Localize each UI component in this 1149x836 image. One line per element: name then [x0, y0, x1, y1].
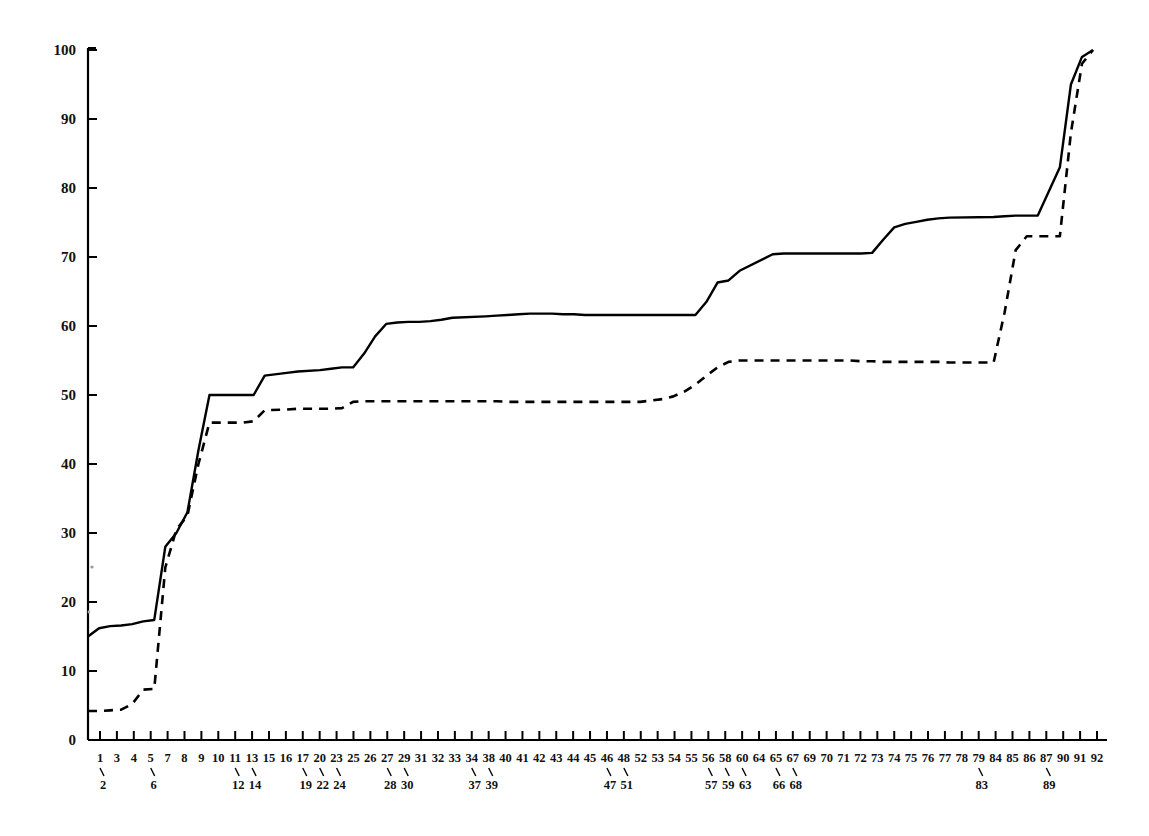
x-tick-label: 52	[634, 751, 647, 765]
x-tick-label: 76	[922, 751, 935, 765]
x-tick-label: 23	[330, 751, 343, 765]
x-tick-label: 86	[1023, 751, 1036, 765]
y-tick-label: 60	[61, 318, 76, 334]
scan-artifact-dot	[88, 611, 91, 614]
x-tick-label: 9	[198, 751, 204, 765]
x-tick-label: 84	[989, 751, 1002, 765]
x-tick-label: 77	[939, 751, 952, 765]
x-label-leader	[235, 768, 239, 776]
x-tick-label-secondary: 89	[1043, 778, 1056, 792]
x-label-leader	[100, 768, 104, 776]
x-tick-label-secondary: 39	[485, 778, 498, 792]
x-tick-label: 31	[415, 751, 428, 765]
x-tick-label-secondary: 51	[621, 778, 634, 792]
x-tick-label: 69	[803, 751, 816, 765]
x-tick-label: 90	[1057, 751, 1070, 765]
x-tick-label: 45	[584, 751, 597, 765]
x-tick-label: 70	[820, 751, 833, 765]
y-tick-label: 40	[61, 456, 76, 472]
x-tick-label: 55	[685, 751, 698, 765]
x-label-leader	[337, 768, 341, 776]
x-tick-label: 44	[567, 751, 580, 765]
x-tick-label-secondary: 6	[151, 778, 157, 792]
x-tick-label-secondary: 47	[604, 778, 617, 792]
x-tick-label: 8	[181, 751, 187, 765]
x-tick-label-secondary: 24	[333, 778, 346, 792]
x-tick-label: 26	[364, 751, 377, 765]
x-tick-label: 5	[148, 751, 154, 765]
x-tick-label-secondary: 57	[705, 778, 718, 792]
x-tick-label: 38	[482, 751, 495, 765]
series-solid-curve	[88, 50, 1093, 637]
x-tick-label: 41	[516, 751, 529, 765]
y-tick-label: 80	[61, 180, 76, 196]
x-tick-label: 25	[347, 751, 360, 765]
x-tick-label-secondary: 22	[316, 778, 329, 792]
y-tick-label: 10	[61, 663, 76, 679]
x-tick-label: 79	[972, 751, 985, 765]
x-tick-label: 33	[449, 751, 462, 765]
x-tick-label: 74	[888, 751, 901, 765]
x-label-leader	[708, 768, 712, 776]
x-tick-label-secondary: 12	[232, 778, 245, 792]
x-tick-label-secondary: 19	[300, 778, 313, 792]
x-tick-label-secondary: 14	[249, 778, 262, 792]
x-tick-label-secondary: 83	[975, 778, 988, 792]
x-tick-label: 72	[854, 751, 867, 765]
x-tick-label-secondary: 63	[739, 778, 752, 792]
y-tick-label: 100	[54, 42, 77, 58]
x-label-leader	[252, 768, 256, 776]
x-tick-label: 67	[787, 751, 800, 765]
x-tick-label: 32	[432, 751, 445, 765]
x-tick-label-secondary: 2	[100, 778, 106, 792]
x-tick-label: 15	[263, 751, 276, 765]
x-tick-label-secondary: 59	[722, 778, 735, 792]
x-tick-label: 56	[702, 751, 715, 765]
x-tick-label: 4	[131, 751, 138, 765]
x-tick-label: 17	[297, 751, 310, 765]
x-tick-label: 75	[905, 751, 918, 765]
x-tick-label: 71	[837, 751, 850, 765]
x-tick-label: 20	[313, 751, 326, 765]
x-label-leader	[151, 768, 155, 776]
x-tick-label: 64	[753, 751, 766, 765]
x-tick-label: 85	[1006, 751, 1019, 765]
x-label-leader	[742, 768, 746, 776]
x-tick-label: 27	[381, 751, 394, 765]
series-dashed-curve	[88, 50, 1093, 711]
x-tick-label: 73	[871, 751, 884, 765]
x-tick-label: 48	[618, 751, 631, 765]
x-tick-label: 91	[1074, 751, 1087, 765]
x-label-leader	[303, 768, 307, 776]
x-tick-label: 87	[1040, 751, 1053, 765]
y-tick-label: 30	[61, 525, 76, 541]
y-tick-label: 20	[61, 594, 76, 610]
x-tick-label: 10	[212, 751, 225, 765]
x-tick-label: 78	[956, 751, 969, 765]
x-label-leader	[725, 768, 729, 776]
x-tick-label-secondary: 28	[384, 778, 397, 792]
x-tick-label: 92	[1091, 751, 1104, 765]
x-tick-label: 29	[398, 751, 411, 765]
x-tick-label: 3	[114, 751, 120, 765]
x-tick-label-secondary: 66	[773, 778, 786, 792]
x-tick-label: 11	[229, 751, 241, 765]
x-tick-label: 16	[280, 751, 293, 765]
x-label-leader	[607, 768, 611, 776]
x-tick-label: 53	[651, 751, 664, 765]
x-label-leader	[320, 768, 324, 776]
y-tick-label: 50	[61, 387, 76, 403]
x-tick-label: 43	[550, 751, 563, 765]
x-label-leader	[404, 768, 408, 776]
x-label-leader	[489, 768, 493, 776]
y-tick-label: 0	[69, 732, 77, 748]
x-tick-label: 7	[164, 751, 170, 765]
x-tick-label: 40	[499, 751, 512, 765]
scan-artifact-dot	[90, 565, 93, 568]
x-tick-label: 58	[719, 751, 732, 765]
chart-figure: 0102030405060708090100134578910111315161…	[0, 0, 1149, 836]
x-tick-label: 42	[533, 751, 546, 765]
x-tick-label: 65	[770, 751, 783, 765]
x-tick-label-secondary: 37	[469, 778, 482, 792]
x-label-leader	[1046, 768, 1050, 776]
